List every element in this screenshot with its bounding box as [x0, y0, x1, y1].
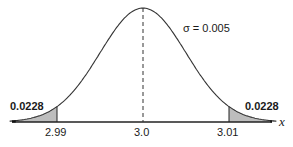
- left-tail-area-label: 0.0228: [10, 100, 44, 112]
- normal-curve-plot: [0, 0, 293, 147]
- tick-label-2-99: 2.99: [45, 126, 66, 138]
- tick-label-3-0: 3.0: [134, 126, 149, 138]
- sigma-annotation: σ = 0.005: [183, 22, 230, 34]
- right-tail-area-label: 0.0228: [245, 100, 279, 112]
- x-axis-label: x: [279, 114, 285, 130]
- tick-label-3-01: 3.01: [217, 126, 238, 138]
